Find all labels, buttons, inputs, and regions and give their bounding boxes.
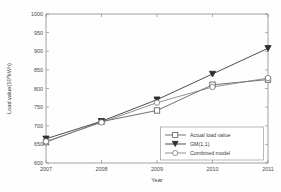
chart-figure: 600 650 700 750 800 850 900 950 1000 200… <box>0 0 281 192</box>
legend-label-gm11: GM(1,1) <box>190 141 210 147</box>
y-tick-label-850: 850 <box>34 67 43 73</box>
legend-label-combined-model: Combined model <box>190 150 230 156</box>
x-tick-label-2011: 2011 <box>262 166 274 172</box>
x-tick-label-2009: 2009 <box>151 166 163 172</box>
square-marker-icon <box>173 132 178 137</box>
chart-legend[interactable]: Actual load value GM(1,1) Combined model <box>161 127 264 160</box>
x-axis-title: Year <box>151 177 162 183</box>
series-line <box>46 48 268 139</box>
y-tick-label-950: 950 <box>34 30 43 36</box>
line-chart-canvas: 600 650 700 750 800 850 900 950 1000 200… <box>0 0 281 192</box>
square-marker-icon <box>154 108 159 113</box>
legend-label-actual-load-value: Actual load value <box>190 132 230 138</box>
y-axis-tick-labels: 600 650 700 750 800 850 900 950 1000 <box>31 11 43 166</box>
triangle-down-marker-icon <box>265 46 271 52</box>
y-tick-label-800: 800 <box>34 86 43 92</box>
legend-item-actual-load-value[interactable]: Actual load value <box>165 132 230 138</box>
legend-item-combined-model[interactable]: Combined model <box>165 150 230 156</box>
y-tick-label-1000: 1000 <box>31 11 43 17</box>
y-axis-title: Load value(10⁸kWh) <box>6 63 12 114</box>
circle-marker-icon <box>173 150 178 155</box>
circle-marker-icon <box>210 84 215 89</box>
y-tick-label-750: 750 <box>34 104 43 110</box>
y-tick-label-900: 900 <box>34 48 43 54</box>
circle-marker-icon <box>43 139 48 144</box>
circle-marker-icon <box>154 100 159 105</box>
x-tick-label-2007: 2007 <box>40 166 52 172</box>
circle-marker-icon <box>265 75 270 80</box>
x-tick-label-2010: 2010 <box>207 166 219 172</box>
x-axis-tick-labels: 2007 2008 2009 2010 2011 <box>40 166 274 172</box>
y-tick-label-650: 650 <box>34 141 43 147</box>
y-tick-label-700: 700 <box>34 123 43 129</box>
triangle-down-marker-icon <box>209 71 215 77</box>
x-tick-label-2008: 2008 <box>96 166 108 172</box>
circle-marker-icon <box>99 120 104 125</box>
